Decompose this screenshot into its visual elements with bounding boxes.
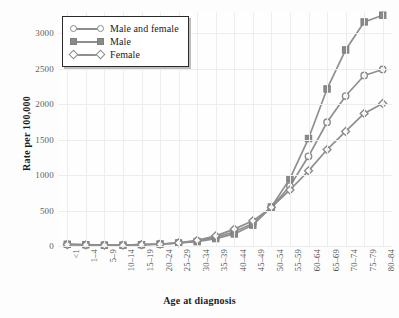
gridline-vertical (346, 12, 347, 246)
x-axis-tick-label: 40–44 (238, 249, 248, 271)
y-axis-tick-label: 2500 (10, 64, 54, 74)
legend-label: Male (110, 36, 131, 47)
x-axis-tick-label: 10–14 (126, 249, 136, 271)
diamond-marker-icon (97, 51, 104, 58)
circle-marker-icon (97, 25, 104, 32)
x-axis-tick-label: 15–19 (145, 249, 155, 271)
x-axis-tick-label: 5–9 (108, 249, 118, 262)
y-axis-tick-label: 1500 (10, 135, 54, 145)
x-axis-tick-label: 20–24 (164, 249, 174, 271)
y-axis-tick-label: 3000 (10, 28, 54, 38)
diamond-marker-icon (70, 51, 77, 58)
legend-label: Male and female (110, 23, 179, 34)
x-axis-tick-label: <1 (71, 249, 81, 258)
legend-swatch-female (70, 49, 104, 61)
legend-swatch-male-and-female (70, 23, 104, 35)
series-line (67, 69, 382, 245)
gridline-vertical (253, 12, 254, 246)
x-axis-tick-label: 75–79 (368, 249, 378, 271)
legend-item-male-and-female[interactable]: Male and female (70, 22, 179, 35)
gridline-horizontal (58, 175, 392, 176)
x-axis-tick-label: 65–69 (331, 249, 341, 271)
legend-item-female[interactable]: Female (70, 48, 179, 61)
legend-swatch-male (70, 36, 104, 48)
y-axis-tick-label: 2000 (10, 99, 54, 109)
square-marker-icon (70, 38, 77, 45)
x-axis-tick-label: 25–29 (182, 249, 192, 271)
gridline-horizontal (58, 140, 392, 141)
gridline-vertical (197, 12, 198, 246)
gridline-vertical (290, 12, 291, 246)
y-axis-title: Rate per 100,000 (21, 74, 32, 194)
gridline-vertical (234, 12, 235, 246)
x-axis-tick-label: 80–84 (386, 249, 396, 271)
gridline-vertical (364, 12, 365, 246)
chart-legend: Male and female Male Female (62, 16, 189, 67)
gridline-horizontal (58, 211, 392, 212)
x-axis-tick-label: 50–54 (275, 249, 285, 271)
gridline-horizontal (58, 69, 392, 70)
x-axis-tick-label: 60–64 (312, 249, 322, 271)
legend-label: Female (110, 49, 140, 60)
gridline-vertical (383, 12, 384, 246)
x-axis-tick-label: 30–34 (201, 249, 211, 271)
x-axis-tick-label: 45–49 (256, 249, 266, 271)
gridline-horizontal (58, 104, 392, 105)
gridline-vertical (309, 12, 310, 246)
square-marker-icon (97, 38, 104, 45)
x-axis-tick-label: 35–39 (219, 249, 229, 271)
y-axis-tick-label: 500 (10, 206, 54, 216)
chart-screenshot: 050010001500200025003000 Rate per 100,00… (0, 0, 399, 318)
x-axis-tick-label: 70–74 (349, 249, 359, 271)
gridline-vertical (271, 12, 272, 246)
y-axis-tick-label: 0 (10, 241, 54, 251)
legend-item-male[interactable]: Male (70, 35, 179, 48)
x-axis-tick-label: 1–4 (89, 249, 99, 262)
x-axis-tick-label: 55–59 (293, 249, 303, 271)
x-axis-tick-labels: <11–45–910–1415–1920–2425–2930–3435–3940… (58, 249, 392, 297)
circle-marker-icon (70, 25, 77, 32)
x-axis-title: Age at diagnosis (0, 295, 399, 306)
gridline-horizontal (58, 246, 392, 247)
gridline-vertical (216, 12, 217, 246)
gridline-vertical (327, 12, 328, 246)
y-axis-tick-label: 1000 (10, 170, 54, 180)
